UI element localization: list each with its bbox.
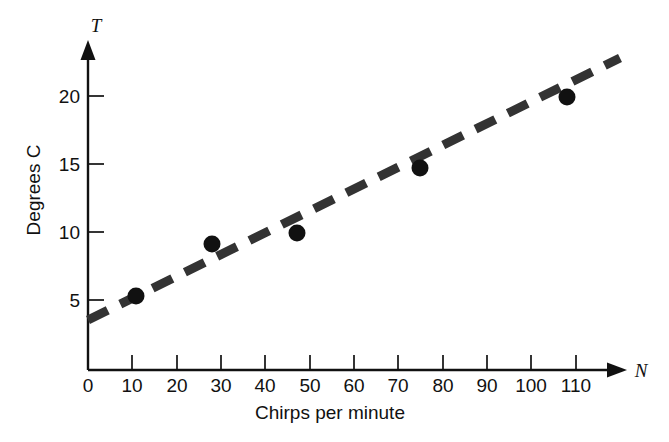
y-tick-label: 5: [69, 290, 80, 311]
y-axis-arrow-icon: [81, 40, 96, 60]
y-tick-label: 15: [59, 154, 80, 175]
x-tick-label: 40: [254, 375, 275, 396]
fitted-trend-line: [88, 58, 620, 320]
x-tick-label: 60: [343, 375, 364, 396]
data-point: [559, 89, 576, 106]
y-tick-marks: [88, 96, 104, 300]
x-tick-label: 110: [561, 375, 591, 396]
y-tick-labels: 20 15 10 5: [59, 86, 80, 311]
x-axis-arrow-icon: [607, 363, 627, 378]
x-tick-label: 50: [299, 375, 320, 396]
x-tick-label: 30: [210, 375, 231, 396]
x-axis-symbol-label: N: [634, 360, 649, 381]
x-tick-label: 0: [83, 375, 94, 396]
x-tick-label: 80: [432, 375, 453, 396]
y-tick-label: 20: [59, 86, 80, 107]
x-tick-label: 90: [476, 375, 497, 396]
chirps-temperature-chart: 20 15 10 5 0 10 20 30 40 50 60 70 80 90 …: [0, 0, 669, 442]
x-tick-label: 70: [387, 375, 408, 396]
y-axis-symbol-label: T: [91, 15, 103, 36]
x-tick-label: 20: [166, 375, 187, 396]
data-point: [289, 225, 306, 242]
chart-canvas: 20 15 10 5 0 10 20 30 40 50 60 70 80 90 …: [0, 0, 669, 442]
x-tick-label: 100: [515, 375, 547, 396]
x-tick-label: 10: [121, 375, 142, 396]
x-axis-title: Chirps per minute: [255, 402, 405, 423]
x-tick-labels: 0 10 20 30 40 50 60 70 80 90 100 110: [83, 375, 591, 396]
y-axis-title: Degrees C: [23, 145, 44, 236]
data-point: [412, 160, 429, 177]
data-point: [128, 288, 145, 305]
data-point: [204, 236, 221, 253]
x-tick-marks: [88, 355, 576, 370]
y-tick-label: 10: [59, 222, 80, 243]
